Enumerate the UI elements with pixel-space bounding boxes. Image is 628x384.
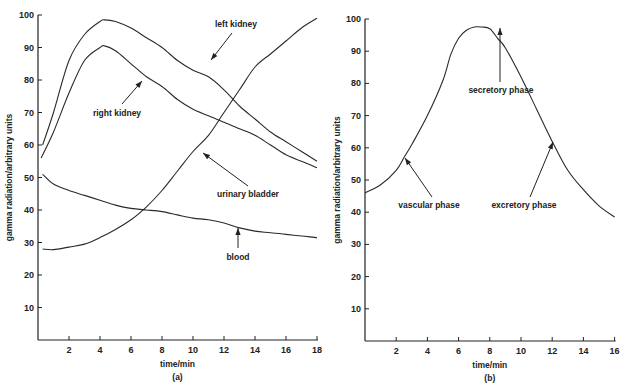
x-tick-label: 14 bbox=[250, 345, 260, 355]
y-tick-label: 60 bbox=[351, 143, 361, 153]
x-tick-label: 8 bbox=[487, 346, 492, 356]
y-tick-label: 100 bbox=[346, 14, 361, 24]
x-axis-title: time/min bbox=[160, 359, 195, 369]
annotation-right-kidney: right kidney bbox=[93, 108, 141, 118]
arrowhead-icon bbox=[203, 153, 210, 159]
x-tick-label: 10 bbox=[188, 345, 198, 355]
x-tick-label: 14 bbox=[578, 346, 588, 356]
figure: 10203040506070809010024681012141618time/… bbox=[0, 0, 628, 384]
arrowhead-icon bbox=[211, 53, 217, 60]
x-tick-label: 16 bbox=[610, 346, 620, 356]
y-tick-label: 100 bbox=[19, 10, 34, 20]
excretory-phase-arrow bbox=[530, 142, 553, 197]
annotation-blood: blood bbox=[226, 252, 249, 262]
arrowhead-icon bbox=[548, 142, 553, 149]
x-tick-label: 2 bbox=[394, 346, 399, 356]
annotation-urinary-bladder: urinary bladder bbox=[217, 189, 280, 199]
x-axis-title: time/min bbox=[472, 360, 507, 370]
vascular-phase-arrow bbox=[405, 158, 432, 197]
y-tick-label: 70 bbox=[351, 111, 361, 121]
y-tick-label: 50 bbox=[351, 175, 361, 185]
annotation-vascular-phase: vascular phase bbox=[398, 200, 460, 210]
x-tick-label: 18 bbox=[312, 345, 322, 355]
y-tick-label: 10 bbox=[351, 304, 361, 314]
y-axis-title: gamma radiation/arbitrary units bbox=[4, 113, 14, 241]
arrowhead-icon bbox=[497, 28, 502, 35]
series-line-right-kidney bbox=[41, 46, 317, 168]
y-tick-label: 40 bbox=[351, 207, 361, 217]
chart-a: 10203040506070809010024681012141618time/… bbox=[4, 10, 322, 382]
arrowhead-icon bbox=[235, 228, 240, 235]
annotation-left-kidney: left kidney bbox=[215, 19, 257, 29]
x-tick-label: 12 bbox=[219, 345, 229, 355]
y-tick-label: 50 bbox=[24, 173, 34, 183]
y-tick-label: 40 bbox=[24, 205, 34, 215]
y-tick-label: 20 bbox=[351, 272, 361, 282]
x-tick-label: 8 bbox=[159, 345, 164, 355]
y-tick-label: 90 bbox=[24, 43, 34, 53]
x-tick-label: 10 bbox=[516, 346, 526, 356]
x-tick-label: 6 bbox=[456, 346, 461, 356]
panel-label: (b) bbox=[484, 373, 495, 383]
annotation-secretory-phase: secretory phase bbox=[468, 85, 533, 95]
x-tick-label: 2 bbox=[66, 345, 71, 355]
y-tick-label: 80 bbox=[351, 78, 361, 88]
x-tick-label: 12 bbox=[547, 346, 557, 356]
y-tick-label: 60 bbox=[24, 140, 34, 150]
x-tick-label: 4 bbox=[97, 345, 102, 355]
x-tick-label: 6 bbox=[128, 345, 133, 355]
y-axis-title: gamma radiation/arbitrary units bbox=[332, 116, 342, 244]
y-tick-label: 10 bbox=[24, 303, 34, 313]
urinary-bladder-arrow bbox=[203, 153, 248, 186]
chart-b: 102030405060708090100246810121416time/mi… bbox=[332, 14, 620, 383]
y-tick-label: 30 bbox=[351, 239, 361, 249]
x-tick-label: 4 bbox=[425, 346, 430, 356]
y-tick-label: 70 bbox=[24, 108, 34, 118]
series-line-renogram bbox=[365, 27, 615, 217]
series-line-blood bbox=[43, 174, 317, 237]
panel-label: (a) bbox=[172, 372, 183, 382]
series-line-left-kidney bbox=[43, 20, 317, 162]
x-tick-label: 16 bbox=[281, 345, 291, 355]
y-tick-label: 30 bbox=[24, 238, 34, 248]
y-tick-label: 90 bbox=[351, 46, 361, 56]
annotation-excretory-phase: excretory phase bbox=[491, 200, 556, 210]
y-tick-label: 80 bbox=[24, 75, 34, 85]
y-tick-label: 20 bbox=[24, 270, 34, 280]
arrowhead-icon bbox=[405, 158, 411, 165]
